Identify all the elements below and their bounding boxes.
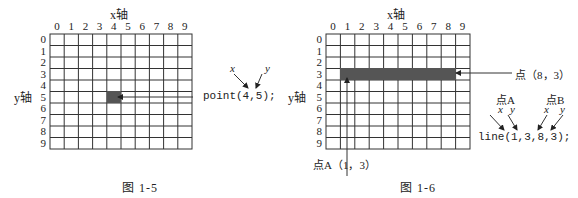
- arrow-label-ax: x: [498, 103, 503, 115]
- tick-label: 3: [369, 20, 383, 32]
- point-code: point(4,5);: [203, 90, 276, 102]
- grid-figure-1-6: [326, 34, 470, 149]
- point-a-coord-label: 点A（1，3）: [313, 156, 376, 172]
- tick-label: 9: [456, 20, 470, 32]
- tick-label: 8: [36, 126, 46, 138]
- tick-label: 0: [36, 34, 46, 46]
- tick-label: 9: [36, 138, 46, 150]
- caption-1-5: 图 1-5: [122, 178, 158, 196]
- tick-label: 6: [412, 20, 426, 32]
- line-pixels: [340, 68, 456, 80]
- tick-label: 6: [312, 103, 322, 115]
- arrow-label-by: y: [560, 103, 565, 115]
- tick-label: 1: [64, 20, 78, 32]
- tick-label: 5: [121, 20, 135, 32]
- tick-label: 4: [384, 20, 398, 32]
- tick-label: 3: [93, 20, 107, 32]
- y-axis-label-2: y轴: [288, 88, 306, 106]
- tick-label: 4: [107, 20, 121, 32]
- tick-label: 1: [340, 20, 354, 32]
- tick-label: 9: [312, 138, 322, 150]
- line-code: line(1,3,8,3);: [478, 131, 570, 143]
- tick-label: 4: [36, 80, 46, 92]
- tick-label: 0: [50, 20, 64, 32]
- point-b-coord-label: 点（8，3）: [515, 66, 570, 82]
- arrow-label-ay: y: [510, 103, 515, 115]
- tick-label: 8: [441, 20, 455, 32]
- caption-1-6: 图 1-6: [400, 178, 436, 196]
- tick-label: 7: [427, 20, 441, 32]
- arrow-label-x-1: x: [230, 62, 235, 74]
- tick-label: 4: [312, 80, 322, 92]
- tick-label: 2: [36, 57, 46, 69]
- tick-label: 2: [78, 20, 92, 32]
- tick-label: 2: [312, 57, 322, 69]
- tick-label: 0: [326, 20, 340, 32]
- arrow-label-y-1: y: [265, 62, 270, 74]
- y-axis-label-1: y轴: [14, 88, 32, 106]
- tick-label: 6: [36, 103, 46, 115]
- tick-label: 9: [178, 20, 192, 32]
- tick-label: 8: [312, 126, 322, 138]
- tick-label: 8: [164, 20, 178, 32]
- tick-label: 5: [398, 20, 412, 32]
- tick-label: 0: [312, 34, 322, 46]
- tick-label: 7: [149, 20, 163, 32]
- arrow-label-bx: x: [544, 103, 549, 115]
- tick-label: 2: [355, 20, 369, 32]
- tick-label: 6: [135, 20, 149, 32]
